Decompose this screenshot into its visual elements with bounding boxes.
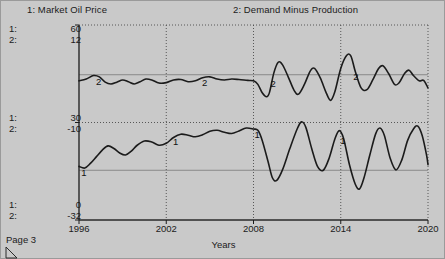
axis-lines bbox=[75, 25, 428, 224]
x-tick-label: 1996 bbox=[68, 223, 89, 234]
x-tick-label: 2020 bbox=[417, 223, 438, 234]
chart-window: 1: Market Oil Price 2: Demand Minus Prod… bbox=[0, 0, 445, 259]
series-marker-label: 2 bbox=[270, 78, 275, 89]
series-marker-label: 1 bbox=[81, 167, 86, 178]
grid-lines bbox=[79, 25, 428, 220]
series-marker-label: 2 bbox=[202, 77, 207, 88]
series-marker-label: 1 bbox=[173, 136, 178, 147]
series-marker-label: 1 bbox=[254, 129, 259, 140]
x-tick-label: 2014 bbox=[330, 223, 351, 234]
x-axis-label: Years bbox=[1, 239, 445, 250]
series-marker-label: 2 bbox=[96, 76, 101, 87]
series-marker-label: 2 bbox=[353, 71, 358, 82]
plot-canvas bbox=[1, 1, 445, 259]
x-tick-label: 2002 bbox=[156, 223, 177, 234]
series-marker-label: 1 bbox=[340, 135, 345, 146]
series-line-2 bbox=[79, 54, 428, 100]
x-tick-label: 2008 bbox=[243, 223, 264, 234]
